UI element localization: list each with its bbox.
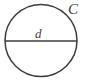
circle-diameter-figure: d C: [0, 0, 85, 81]
circumference-label: C: [68, 2, 78, 17]
diameter-label: d: [35, 27, 42, 40]
